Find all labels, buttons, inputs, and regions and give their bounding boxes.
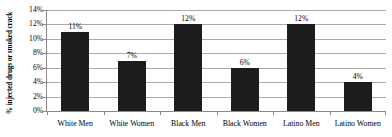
x-axis-category-label: Black Women [217, 118, 274, 129]
bar-value-label: 11% [68, 22, 82, 31]
bar-group: 7% [104, 10, 161, 111]
bar[interactable] [174, 24, 202, 111]
bar-value-label: 12% [181, 14, 195, 23]
y-axis-tick-mark [43, 39, 47, 40]
x-axis-category-label: White Women [104, 118, 161, 129]
y-axis-tick-label: 14% [17, 6, 43, 14]
bar-value-label: 12% [294, 14, 308, 23]
bar[interactable] [118, 61, 146, 112]
bar-value-label: 7% [127, 51, 137, 60]
x-axis-tick-mark [217, 111, 218, 115]
plot-area: 11%7%12%6%12%4% [47, 10, 386, 111]
bar[interactable] [61, 32, 89, 111]
y-axis-tick-mark [43, 68, 47, 69]
y-axis-tick-mark [43, 10, 47, 11]
y-axis-tick-mark [43, 53, 47, 54]
y-axis-tick-label: 12% [17, 20, 43, 28]
y-axis-tick-label: 6% [17, 64, 43, 72]
bar-group: 6% [217, 10, 274, 111]
x-axis-category-label: Black Men [160, 118, 217, 129]
bar-value-label: 6% [240, 58, 250, 67]
x-axis-ticks [47, 111, 386, 115]
y-axis-tick-mark [43, 111, 47, 112]
y-axis-tick-label: 10% [17, 35, 43, 43]
x-axis-tick-mark [385, 111, 386, 115]
y-axis-tick-labels: 0%2%4%6%8%10%12%14% [13, 0, 43, 137]
y-axis-tick-label: 4% [17, 78, 43, 86]
bar-group: 4% [330, 10, 387, 111]
bar-group: 12% [273, 10, 330, 111]
x-axis-tick-mark [273, 111, 274, 115]
y-axis-tick-mark [43, 97, 47, 98]
y-axis-tick-mark [43, 24, 47, 25]
x-axis-tick-mark [330, 111, 331, 115]
bar[interactable] [231, 68, 259, 111]
y-axis-tick-mark [43, 82, 47, 83]
bar[interactable] [344, 82, 372, 111]
x-axis-category-label: White Men [47, 118, 104, 129]
x-axis-category-label: Latino Men [273, 118, 330, 129]
bar-chart: % injected drugs or smoked crack 0%2%4%6… [0, 0, 392, 137]
y-axis-tick-label: 2% [17, 93, 43, 101]
x-axis-category-label: Latino Women [330, 118, 387, 129]
bar[interactable] [287, 24, 315, 111]
x-axis-tick-labels: White MenWhite WomenBlack MenBlack Women… [47, 118, 386, 132]
bar-group: 11% [47, 10, 104, 111]
x-axis-tick-mark [104, 111, 105, 115]
bar-group: 12% [160, 10, 217, 111]
y-axis-tick-label: 0% [17, 107, 43, 115]
x-axis-tick-mark [47, 111, 48, 115]
y-axis-tick-label: 8% [17, 49, 43, 57]
bar-value-label: 4% [353, 72, 363, 81]
x-axis-tick-mark [160, 111, 161, 115]
